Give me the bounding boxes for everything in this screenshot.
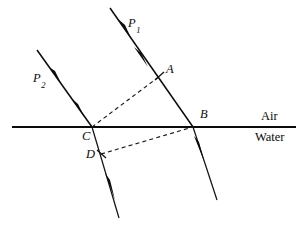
label-ray-p1-subscript: 1 (136, 25, 140, 35)
wavefront-line-ac (92, 76, 160, 127)
label-point-a: A (166, 63, 174, 76)
label-point-d: D (86, 148, 95, 161)
refraction-diagram: P1 P2 A B C D Air Water (0, 0, 305, 228)
refracted-ray-from-c (92, 127, 119, 218)
diagram-canvas (0, 0, 305, 228)
label-ray-p2: P2 (33, 72, 45, 87)
label-ray-p1-main: P (128, 16, 136, 30)
arrowhead-p1-lower (134, 47, 148, 67)
refracted-ray-from-b (193, 127, 217, 200)
label-medium-air: Air (261, 110, 278, 123)
incident-ray-p2 (37, 50, 92, 127)
label-medium-water: Water (255, 131, 285, 144)
tick-at-d (97, 150, 106, 158)
arrowhead-refracted-b (194, 136, 204, 161)
label-point-b: B (200, 108, 208, 121)
label-ray-p2-main: P (33, 71, 41, 85)
label-ray-p1: P1 (128, 17, 140, 32)
label-point-c: C (82, 130, 90, 143)
label-ray-p2-subscript: 2 (41, 80, 45, 90)
wavefront-line-db (101, 127, 193, 154)
incident-ray-p1 (110, 8, 193, 127)
